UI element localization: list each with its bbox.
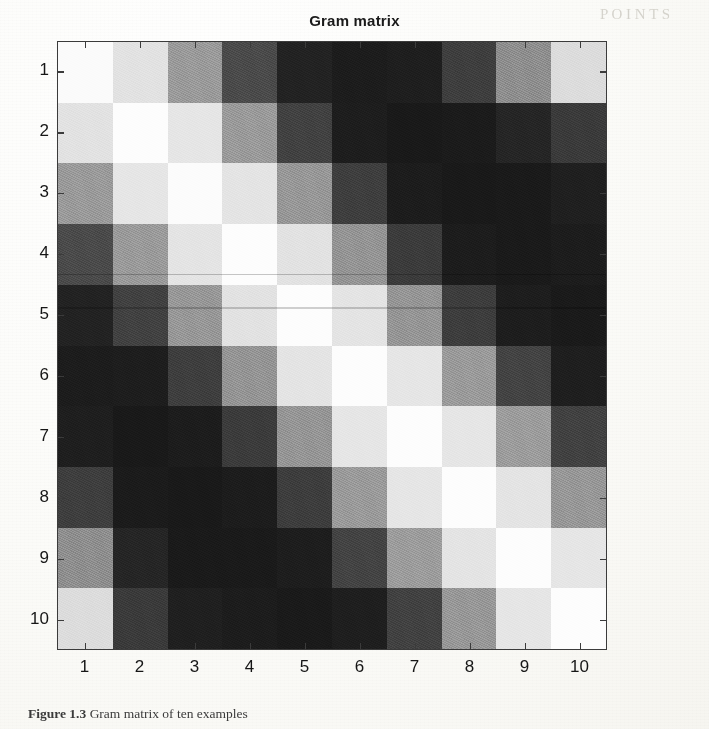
heatmap-cell[interactable] (551, 163, 606, 224)
heatmap-cell[interactable] (58, 346, 113, 407)
heatmap-cell[interactable] (277, 103, 332, 164)
heatmap-cell[interactable] (168, 346, 223, 407)
heatmap-cell[interactable] (113, 406, 168, 467)
heatmap-cell[interactable] (551, 346, 606, 407)
heatmap-cell[interactable] (332, 346, 387, 407)
heatmap-cell[interactable] (168, 588, 223, 649)
heatmap-cell[interactable] (551, 588, 606, 649)
heatmap-cell[interactable] (496, 588, 551, 649)
heatmap-cell[interactable] (496, 42, 551, 103)
heatmap-cell[interactable] (496, 103, 551, 164)
heatmap-cell[interactable] (551, 528, 606, 589)
heatmap-cell[interactable] (387, 346, 442, 407)
heatmap-cell[interactable] (551, 224, 606, 285)
heatmap-cell[interactable] (168, 467, 223, 528)
heatmap-cell[interactable] (277, 285, 332, 346)
heatmap-cell[interactable] (222, 467, 277, 528)
heatmap-cell[interactable] (58, 224, 113, 285)
heatmap-cell[interactable] (332, 224, 387, 285)
heatmap-cell[interactable] (332, 163, 387, 224)
heatmap-cell[interactable] (387, 406, 442, 467)
heatmap-cell[interactable] (332, 467, 387, 528)
heatmap-cell[interactable] (332, 103, 387, 164)
heatmap-cell[interactable] (168, 285, 223, 346)
heatmap-cell[interactable] (442, 224, 497, 285)
heatmap-cell[interactable] (222, 528, 277, 589)
heatmap-cell[interactable] (442, 406, 497, 467)
heatmap-cell[interactable] (277, 588, 332, 649)
heatmap-cell[interactable] (332, 285, 387, 346)
heatmap-cell[interactable] (387, 103, 442, 164)
heatmap-cell[interactable] (58, 467, 113, 528)
heatmap-cell[interactable] (113, 42, 168, 103)
heatmap-cell[interactable] (551, 285, 606, 346)
heatmap-cell[interactable] (442, 103, 497, 164)
heatmap-cell[interactable] (222, 285, 277, 346)
heatmap-cell[interactable] (442, 528, 497, 589)
heatmap-cell[interactable] (168, 163, 223, 224)
heatmap-cell[interactable] (442, 588, 497, 649)
heatmap-cell[interactable] (222, 224, 277, 285)
heatmap-cell[interactable] (58, 42, 113, 103)
heatmap-cell[interactable] (496, 163, 551, 224)
heatmap-cell[interactable] (58, 588, 113, 649)
heatmap-cell[interactable] (551, 467, 606, 528)
heatmap-cell[interactable] (551, 103, 606, 164)
heatmap-cell[interactable] (387, 224, 442, 285)
heatmap-cell[interactable] (387, 42, 442, 103)
heatmap-cell[interactable] (496, 528, 551, 589)
heatmap-cell[interactable] (496, 346, 551, 407)
heatmap-cell[interactable] (168, 406, 223, 467)
heatmap-cell[interactable] (58, 163, 113, 224)
heatmap-cell[interactable] (442, 346, 497, 407)
heatmap-cell[interactable] (222, 42, 277, 103)
heatmap-cell[interactable] (332, 588, 387, 649)
heatmap-cell[interactable] (222, 163, 277, 224)
heatmap-cell[interactable] (387, 163, 442, 224)
heatmap-plot-area[interactable] (57, 41, 607, 650)
heatmap-cell[interactable] (277, 406, 332, 467)
heatmap-cell[interactable] (113, 588, 168, 649)
heatmap-cell[interactable] (58, 103, 113, 164)
heatmap-cell[interactable] (113, 103, 168, 164)
heatmap-cell[interactable] (387, 467, 442, 528)
heatmap-cell[interactable] (168, 224, 223, 285)
heatmap-cell[interactable] (442, 163, 497, 224)
heatmap-cell[interactable] (222, 103, 277, 164)
heatmap-cell[interactable] (332, 406, 387, 467)
heatmap-cell[interactable] (442, 42, 497, 103)
heatmap-cell[interactable] (222, 588, 277, 649)
heatmap-cell[interactable] (277, 42, 332, 103)
heatmap-cell[interactable] (113, 163, 168, 224)
heatmap-cell[interactable] (496, 467, 551, 528)
heatmap-cell[interactable] (442, 467, 497, 528)
heatmap-cell[interactable] (277, 528, 332, 589)
heatmap-cell[interactable] (58, 528, 113, 589)
heatmap-cell[interactable] (442, 285, 497, 346)
heatmap-cell[interactable] (496, 224, 551, 285)
heatmap-cell[interactable] (332, 528, 387, 589)
heatmap-grid[interactable] (58, 42, 606, 649)
heatmap-cell[interactable] (277, 224, 332, 285)
heatmap-cell[interactable] (387, 528, 442, 589)
heatmap-cell[interactable] (387, 285, 442, 346)
heatmap-cell[interactable] (551, 42, 606, 103)
heatmap-cell[interactable] (113, 346, 168, 407)
heatmap-cell[interactable] (58, 406, 113, 467)
heatmap-cell[interactable] (113, 224, 168, 285)
heatmap-cell[interactable] (551, 406, 606, 467)
heatmap-cell[interactable] (332, 42, 387, 103)
heatmap-cell[interactable] (222, 406, 277, 467)
heatmap-cell[interactable] (113, 285, 168, 346)
heatmap-cell[interactable] (277, 163, 332, 224)
heatmap-cell[interactable] (222, 346, 277, 407)
heatmap-cell[interactable] (58, 285, 113, 346)
heatmap-cell[interactable] (113, 528, 168, 589)
heatmap-cell[interactable] (277, 467, 332, 528)
heatmap-cell[interactable] (168, 528, 223, 589)
heatmap-cell[interactable] (168, 103, 223, 164)
heatmap-cell[interactable] (496, 406, 551, 467)
heatmap-cell[interactable] (277, 346, 332, 407)
heatmap-cell[interactable] (168, 42, 223, 103)
heatmap-cell[interactable] (496, 285, 551, 346)
